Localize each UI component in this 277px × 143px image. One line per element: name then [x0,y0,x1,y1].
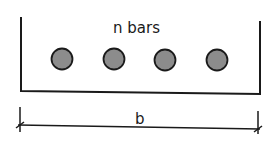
rebar-3 [155,50,176,71]
rebar-1 [52,49,73,70]
dimension-b-label: b [135,110,145,128]
reinforcing-bars [52,49,228,71]
rebar-4 [207,50,228,71]
beam-cross-section-diagram: n bars b [0,0,277,143]
rebar-2 [104,49,125,70]
n-bars-label: n bars [113,19,160,37]
